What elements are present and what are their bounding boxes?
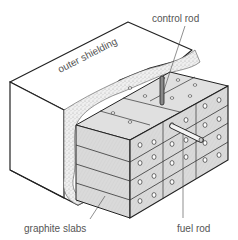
label-fuel-rod: fuel rod — [177, 223, 210, 234]
control-rod — [160, 76, 164, 105]
label-graphite-slabs: graphite slabs — [24, 223, 86, 234]
reactor-core-diagram: control rod outer shielding graphite sla… — [0, 0, 238, 240]
label-control-rod: control rod — [152, 13, 199, 24]
